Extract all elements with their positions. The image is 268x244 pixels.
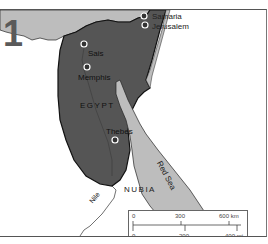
region-label-nubia: NUBIA — [124, 186, 156, 194]
scale-km-600: 600 km — [219, 213, 239, 219]
region-label-egypt: EGYPT — [80, 102, 115, 110]
city-label-samaria: Samaria — [152, 13, 182, 21]
map-frame: 1 Samaria Jerusalem Sais Memphis Thebes … — [0, 9, 267, 237]
scale-bar: 0 300 600 km 0 200 400 mi — [128, 210, 248, 237]
scale-km-0: 0 — [132, 213, 135, 219]
city-marker-memphis — [84, 64, 90, 70]
city-label-thebes: Thebes — [106, 128, 133, 136]
scale-mi-200: 200 — [179, 233, 189, 237]
scale-mi-0: 0 — [132, 233, 135, 237]
city-marker-jerusalem — [142, 22, 148, 28]
city-marker-sais — [81, 41, 87, 47]
map-graphic — [0, 10, 266, 236]
city-label-jerusalem: Jerusalem — [152, 23, 189, 31]
city-marker-thebes — [112, 137, 118, 143]
scale-km-300: 300 — [175, 213, 185, 219]
scale-mi-400: 400 mi — [225, 233, 243, 237]
city-marker-samaria — [141, 13, 147, 19]
plate-number: 1 — [3, 16, 23, 52]
city-label-sais: Sais — [88, 50, 104, 58]
city-label-memphis: Memphis — [78, 74, 110, 82]
